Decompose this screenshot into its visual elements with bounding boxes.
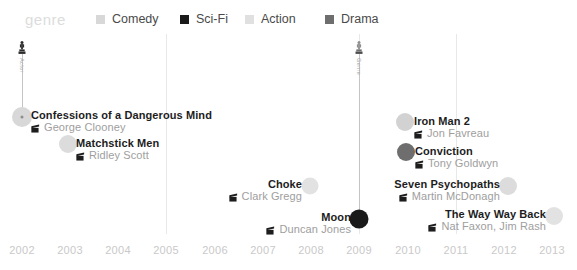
clapperboard-icon	[76, 152, 85, 161]
gridline-2005	[166, 34, 167, 234]
data-point-matchstick-men[interactable]	[59, 135, 77, 153]
movie-director: Ridley Scott	[76, 149, 159, 162]
data-point-label-seven-psychopaths: Seven Psychopaths Martin McDonagh	[385, 178, 500, 203]
movie-title: Confessions of a Dangerous Mind	[31, 109, 212, 121]
award-stem-label-genre: Genre	[356, 58, 362, 75]
axis-tick-2006: 2006	[202, 244, 228, 256]
axis-tick-2005: 2005	[153, 244, 179, 256]
movie-director: Duncan Jones	[238, 223, 351, 236]
data-point-label-confessions-of-a-dangerous-mind: Confessions of a Dangerous Mind George C…	[31, 109, 212, 134]
movie-title: The Way Way Back	[415, 208, 546, 220]
oscar-statuette-icon	[17, 41, 27, 55]
director-name: Clark Gregg	[242, 190, 302, 203]
director-name: Martin McDonagh	[412, 190, 500, 203]
axis-tick-2008: 2008	[298, 244, 324, 256]
oscar-statuette-icon	[354, 41, 364, 55]
data-point-label-the-way-way-back: The Way Way Back Nat Faxon, Jim Rash	[415, 208, 546, 233]
movie-director: Tony Goldwyn	[415, 157, 498, 170]
x-axis: 2002 2003 2004 2005 2006 2007 2008 2009 …	[0, 238, 577, 270]
clapperboard-icon	[415, 160, 424, 169]
legend-item-drama[interactable]: Drama	[325, 13, 379, 26]
movie-title: Moon	[238, 211, 351, 223]
legend-item-comedy[interactable]: Comedy	[96, 13, 159, 26]
award-stem-genre	[359, 54, 360, 219]
clapperboard-icon	[414, 130, 423, 139]
data-point-confessions-of-a-dangerous-mind[interactable]	[12, 107, 32, 127]
drama-swatch	[325, 15, 334, 24]
axis-tick-2010: 2010	[395, 244, 421, 256]
director-name: Jon Favreau	[427, 127, 489, 140]
award-stem-label-actor: Actor	[19, 58, 25, 73]
movie-timeline-chart: genre Comedy Sci-Fi Action Drama	[0, 0, 577, 270]
legend-title: genre	[25, 11, 66, 28]
axis-tick-2012: 2012	[491, 244, 517, 256]
data-point-the-way-way-back[interactable]	[545, 207, 563, 225]
data-point-seven-psychopaths[interactable]	[499, 177, 517, 195]
director-name: George Clooney	[44, 121, 126, 134]
movie-title: Seven Psychopaths	[385, 178, 500, 190]
movie-title: Iron Man 2	[414, 115, 489, 127]
legend-label-action: Action	[261, 13, 296, 26]
clapperboard-icon	[31, 124, 40, 133]
axis-tick-2011: 2011	[444, 244, 469, 256]
axis-tick-2009: 2009	[346, 244, 372, 256]
data-point-label-matchstick-men: Matchstick Men Ridley Scott	[76, 137, 159, 162]
data-point-label-conviction: Conviction Tony Goldwyn	[415, 145, 498, 170]
clapperboard-icon	[229, 193, 238, 202]
movie-director: Martin McDonagh	[385, 190, 500, 203]
axis-tick-2002: 2002	[9, 244, 35, 256]
legend-item-sci-fi[interactable]: Sci-Fi	[180, 13, 228, 26]
data-point-label-moon: Moon Duncan Jones	[238, 211, 351, 236]
legend-label-drama: Drama	[341, 13, 379, 26]
legend: genre Comedy Sci-Fi Action Drama	[0, 0, 577, 34]
movie-title: Matchstick Men	[76, 137, 159, 149]
data-point-conviction[interactable]	[397, 143, 415, 161]
data-point-center	[21, 116, 24, 119]
data-point-moon[interactable]	[350, 210, 369, 229]
data-point-label-iron-man-2: Iron Man 2 Jon Favreau	[414, 115, 489, 140]
director-name: Ridley Scott	[89, 149, 149, 162]
action-swatch	[245, 15, 254, 24]
movie-title: Choke	[200, 178, 302, 190]
axis-tick-2013: 2013	[539, 244, 565, 256]
director-name: Nat Faxon, Jim Rash	[441, 220, 546, 233]
data-point-label-choke: Choke Clark Gregg	[200, 178, 302, 203]
legend-label-sci-fi: Sci-Fi	[196, 13, 228, 26]
director-name: Duncan Jones	[279, 223, 351, 236]
clapperboard-icon	[399, 193, 408, 202]
plot-area: Actor Genre Confessions of a Dangerous M…	[0, 34, 577, 270]
movie-director: Nat Faxon, Jim Rash	[415, 220, 546, 233]
legend-label-comedy: Comedy	[112, 13, 159, 26]
comedy-swatch	[96, 15, 105, 24]
data-point-iron-man-2[interactable]	[396, 113, 414, 131]
clapperboard-icon	[428, 223, 437, 232]
axis-tick-2004: 2004	[105, 244, 131, 256]
movie-title: Conviction	[415, 145, 498, 157]
movie-director: Jon Favreau	[414, 127, 489, 140]
axis-tick-2007: 2007	[250, 244, 276, 256]
director-name: Tony Goldwyn	[428, 157, 498, 170]
data-point-choke[interactable]	[302, 178, 319, 195]
legend-item-action[interactable]: Action	[245, 13, 296, 26]
movie-director: George Clooney	[31, 121, 212, 134]
clapperboard-icon	[266, 226, 275, 235]
axis-tick-2003: 2003	[57, 244, 83, 256]
movie-director: Clark Gregg	[200, 190, 302, 203]
sci-fi-swatch	[180, 15, 189, 24]
